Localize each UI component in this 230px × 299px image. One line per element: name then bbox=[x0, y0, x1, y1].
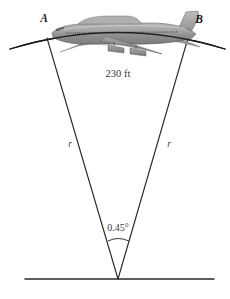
label-radius-left: r bbox=[68, 139, 72, 149]
airplane-arc-diagram: A B 230 ft r r 0.45° bbox=[0, 0, 230, 299]
label-central-angle: 0.45° bbox=[107, 222, 129, 233]
label-point-a: A bbox=[39, 12, 48, 24]
label-arc-length: 230 ft bbox=[106, 68, 131, 79]
label-point-b: B bbox=[194, 13, 203, 25]
label-radius-right: r bbox=[167, 139, 171, 149]
figure-container: A B 230 ft r r 0.45° bbox=[0, 0, 230, 299]
